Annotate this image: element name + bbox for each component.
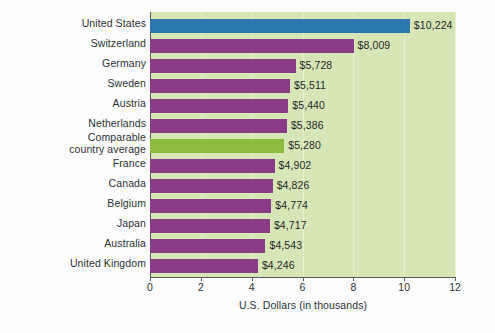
category-label-line: United Kingdom <box>4 257 146 269</box>
bar <box>150 19 410 33</box>
category-label: United States <box>4 17 146 29</box>
category-label: France <box>4 157 146 169</box>
bar-value-label: $4,774 <box>275 198 308 213</box>
x-tick-label: 6 <box>288 281 318 293</box>
bar <box>150 179 273 193</box>
bar-value-label: $4,717 <box>274 218 307 233</box>
bar <box>150 199 271 213</box>
bar-value-label: $4,902 <box>279 158 312 173</box>
x-tick-label: 8 <box>338 281 368 293</box>
bar-value-label: $4,246 <box>262 258 295 273</box>
bar <box>150 139 284 153</box>
bar <box>150 99 288 113</box>
bar <box>150 119 287 133</box>
bar-value-label: $8,009 <box>358 38 391 53</box>
bar-value-label: $4,543 <box>269 238 302 253</box>
bar-value-label: $5,511 <box>294 78 326 93</box>
category-label: Austria <box>4 97 146 109</box>
x-tick-label: 12 <box>440 281 470 293</box>
category-label-line: Switzerland <box>4 37 146 49</box>
bar-value-label: $5,280 <box>288 138 321 153</box>
bar-value-label: $5,440 <box>292 98 325 113</box>
category-label-line: Netherlands <box>4 117 146 129</box>
category-label: Netherlands <box>4 117 146 129</box>
category-label-line: Canada <box>4 177 146 189</box>
bar <box>150 59 296 73</box>
bar-value-label: $10,224 <box>414 18 453 33</box>
bar-value-label: $5,386 <box>291 118 324 133</box>
x-tick-label: 0 <box>135 281 165 293</box>
bar <box>150 239 265 253</box>
bar <box>150 79 290 93</box>
x-axis-title: U.S. Dollars (in thousands) <box>150 299 456 311</box>
category-label-line: Austria <box>4 97 146 109</box>
category-label-line: Germany <box>4 57 146 69</box>
category-label-line: France <box>4 157 146 169</box>
category-label: Japan <box>4 217 146 229</box>
category-label-line: Australia <box>4 237 146 249</box>
x-tick-label: 4 <box>237 281 267 293</box>
category-label: Australia <box>4 237 146 249</box>
category-label: Comparablecountry average <box>4 131 146 155</box>
bar-chart-figure: $10,224$8,009$5,728$5,511$5,440$5,386$5,… <box>0 0 495 333</box>
bar <box>150 259 258 273</box>
category-label: Switzerland <box>4 37 146 49</box>
category-label-line: Comparable <box>4 131 146 143</box>
category-label-line: Belgium <box>4 197 146 209</box>
category-label: Canada <box>4 177 146 189</box>
category-label: Belgium <box>4 197 146 209</box>
category-label-line: Japan <box>4 217 146 229</box>
x-tick-label: 10 <box>389 281 419 293</box>
category-label: Germany <box>4 57 146 69</box>
category-label-line: United States <box>4 17 146 29</box>
bar-value-label: $5,728 <box>300 58 333 73</box>
bar <box>150 39 354 53</box>
bar <box>150 159 275 173</box>
category-label-line: Sweden <box>4 77 146 89</box>
x-tick-label: 2 <box>186 281 216 293</box>
category-label: United Kingdom <box>4 257 146 269</box>
category-label: Sweden <box>4 77 146 89</box>
category-label-line: country average <box>4 143 146 155</box>
bar <box>150 219 270 233</box>
bar-value-label: $4,826 <box>277 178 310 193</box>
